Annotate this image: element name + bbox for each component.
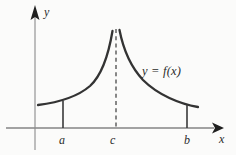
figure-container: y x a c b y = f(x): [0, 0, 236, 155]
curve-left-branch: [38, 31, 113, 105]
tick-label-a: a: [59, 134, 65, 146]
y-axis-label: y: [44, 6, 49, 18]
tick-label-c: c: [110, 134, 115, 146]
tick-label-b: b: [184, 134, 190, 146]
figure-graphic: [0, 0, 236, 155]
curve-function-label: y = f(x): [142, 65, 181, 78]
x-axis-label: x: [219, 133, 224, 145]
